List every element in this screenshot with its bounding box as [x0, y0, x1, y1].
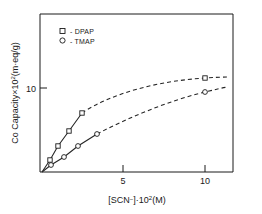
x-axis-title-pre: [SCN: [108, 195, 130, 205]
legend-square-marker-icon: [60, 29, 65, 34]
x-tick-label-5: 5: [120, 176, 125, 186]
tmap-data-point: [76, 144, 81, 149]
dpap-data-point: [48, 158, 52, 162]
chart-canvas: 5 10 10 - DPAP - T: [0, 0, 262, 214]
legend-label-tmap: - TMAP: [70, 38, 95, 45]
x-axis-ticks: [123, 165, 205, 172]
chart-figure: 5 10 10 - DPAP - T: [0, 0, 262, 214]
tmap-dashed-segment: [97, 87, 228, 134]
x-axis-title-post: (M): [152, 195, 166, 205]
y-axis-title: Co Capacity×102(m·eq/g): [10, 42, 21, 144]
tmap-data-point: [95, 132, 100, 137]
tmap-data-point: [62, 155, 67, 160]
dpap-data-point: [203, 76, 207, 80]
dpap-data-point: [67, 129, 71, 133]
x-tick-label-10: 10: [200, 176, 210, 186]
legend-label-dpap: - DPAP: [70, 28, 94, 35]
y-tick-label-10: 10: [26, 84, 36, 94]
dpap-solid-segment: [42, 113, 82, 172]
series-dpap: [42, 76, 229, 172]
y-axis-title-post: (m·eq/g): [10, 42, 20, 76]
x-axis-title-mid: ]·10: [133, 195, 149, 205]
y-axis-title-pre: Co Capacity×10: [10, 80, 20, 144]
dpap-data-point: [80, 111, 84, 115]
tmap-data-point: [203, 90, 208, 95]
chart-legend: - DPAP - TMAP: [60, 28, 95, 45]
x-axis-title: [SCN−]·102(M): [108, 195, 165, 206]
legend-circle-marker-icon: [60, 38, 65, 43]
tmap-data-point: [49, 163, 54, 168]
dpap-data-point: [56, 144, 60, 148]
